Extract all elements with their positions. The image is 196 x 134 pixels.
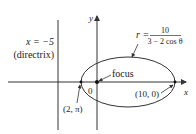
conic-diagram: y x 0 x = −5 (directrix) r = 10 3 − 2 co… [0, 0, 196, 134]
equation-denominator: 3 − 2 cos θ [147, 37, 182, 46]
focus-label: focus [112, 68, 134, 79]
vertex-left-point [80, 81, 83, 84]
x-axis-label: x [183, 87, 188, 97]
vertex-left-leader [77, 85, 80, 103]
vertex-right-point [174, 81, 177, 84]
vertex-right-label: (10, 0) [135, 89, 159, 99]
directrix-label: (directrix) [13, 49, 54, 61]
origin-label: 0 [88, 86, 93, 96]
equation-leader [132, 44, 138, 57]
directrix-equation: x = −5 [25, 36, 54, 47]
equation-numerator: 10 [161, 26, 169, 35]
focus-leader [99, 75, 111, 81]
vertex-left-label: (2, π) [63, 104, 83, 114]
y-axis-label: y [88, 13, 93, 23]
focus-point [95, 80, 99, 84]
